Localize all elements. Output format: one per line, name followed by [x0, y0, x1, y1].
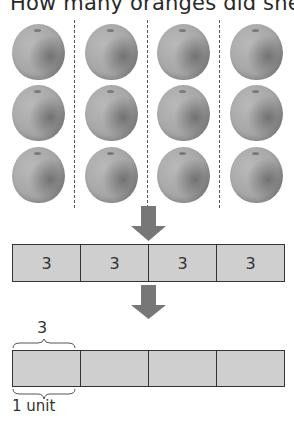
top-brace-icon [12, 338, 76, 350]
bar-cell [81, 351, 149, 386]
unit-value-label: 3 [37, 318, 47, 337]
bar-cell: 3 [81, 245, 149, 281]
bar-cell [149, 351, 217, 386]
orange-image [230, 147, 283, 203]
question-title: How many oranges did she give [10, 0, 294, 15]
bar-cell: 3 [149, 245, 217, 281]
bar-cell [217, 351, 284, 386]
down-arrow-icon [128, 285, 168, 321]
bar-model-bottom [12, 350, 285, 387]
group-divider-line [74, 20, 75, 208]
unit-caption-label: 1 unit [12, 397, 55, 415]
bar-cell: 3 [13, 245, 81, 281]
bar-cell [13, 351, 81, 386]
down-arrow-icon [128, 206, 168, 242]
group-divider-line [147, 20, 148, 208]
bar-cell: 3 [217, 245, 284, 281]
orange-image [157, 85, 210, 141]
orange-image [12, 24, 65, 80]
bar-model-top: 3 3 3 3 [12, 244, 285, 282]
orange-image [230, 85, 283, 141]
orange-image [85, 147, 138, 203]
orange-image [157, 147, 210, 203]
orange-image [157, 24, 210, 80]
group-divider-line [219, 20, 220, 208]
orange-image [85, 24, 138, 80]
orange-image [230, 24, 283, 80]
orange-image [12, 147, 65, 203]
orange-image [12, 85, 65, 141]
orange-image [85, 85, 138, 141]
